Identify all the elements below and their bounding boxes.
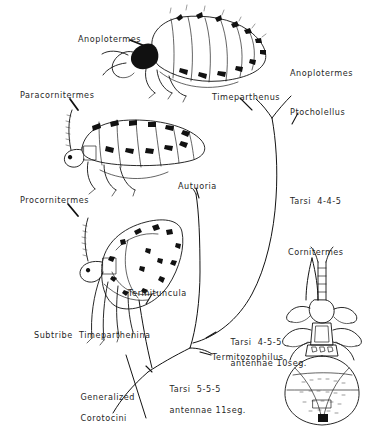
label-termituncula: Termituncula <box>128 288 187 299</box>
label-cornitermes: Cornitermes <box>288 247 344 258</box>
label-tarsi-4-4-5: Tarsi 4-4-5 <box>290 196 341 207</box>
generalized-corotocini-line1: Generalized <box>81 392 136 402</box>
label-paracornitermes: Paracornitermes <box>20 90 94 101</box>
label-tarsi-4-5-5: Tarsi 4-5-5 antennae 10seg. <box>218 327 307 378</box>
label-ptocholellus: Ptocholellus <box>290 107 345 118</box>
tarsi-4-5-5-line2: antennae 10seg. <box>231 358 307 368</box>
label-subtribe-timeparthenina: Subtribe Timeparthenina <box>34 330 151 341</box>
tarsi-4-5-5-line1: Tarsi 4-5-5 <box>231 337 282 347</box>
generalized-corotocini-line2: Corotocini <box>81 413 127 423</box>
specimen-lower-illustration <box>80 218 183 345</box>
tarsi-5-5-5-line1: Tarsi 5-5-5 <box>170 384 221 394</box>
label-leaders <box>68 40 298 372</box>
label-anoplotermes-right: Anoplotermes <box>290 68 353 79</box>
tarsi-5-5-5-line2: antennae 11seg. <box>170 405 246 415</box>
label-generalized-corotocini: Generalized Corotocini <box>68 382 135 433</box>
label-anoplotermes-left: Anoplotermes <box>78 34 141 45</box>
figure-plate: Anoplotermes Paracornitermes Procorniter… <box>0 0 369 440</box>
label-timeparthenus: Timeparthenus <box>212 92 280 103</box>
label-procornitermes: Procornitermes <box>20 195 89 206</box>
label-tarsi-5-5-5: Tarsi 5-5-5 antennae 11seg. <box>157 374 246 425</box>
label-autuoria: Autuoria <box>178 181 217 192</box>
specimen-top-illustration <box>102 5 266 102</box>
